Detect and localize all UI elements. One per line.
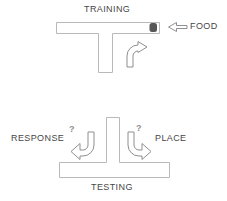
place-question-mark: ? — [136, 124, 142, 133]
place-label: PLACE — [155, 134, 187, 143]
t-maze-diagram: TRAINING FOOD ? ? RESPONSE PLACE TESTING — [0, 0, 227, 201]
testing-title: TESTING — [91, 183, 133, 192]
curved-right-arrow-icon — [128, 132, 151, 160]
left-arrow-to-food-icon — [169, 23, 188, 32]
food-pellet — [150, 23, 158, 32]
turn-right-arrow-icon — [127, 42, 147, 68]
food-label: FOOD — [190, 22, 218, 31]
response-question-mark: ? — [69, 125, 75, 134]
curved-left-arrow-icon — [71, 132, 94, 160]
response-label: RESPONSE — [11, 134, 64, 143]
